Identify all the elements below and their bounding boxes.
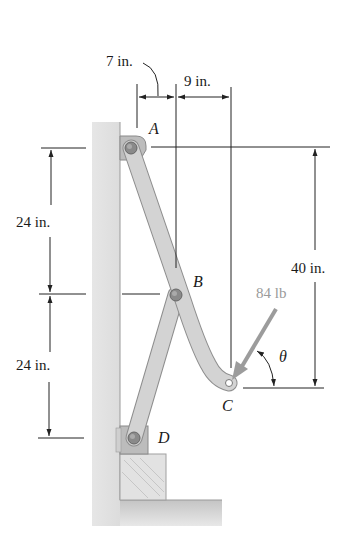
angle-theta-label: θ: [279, 348, 287, 365]
point-c-label: C: [222, 397, 233, 414]
dim-label-9in: 9 in.: [184, 73, 211, 89]
dim-label-24in-upper: 24 in.: [16, 214, 50, 230]
pin-a: [125, 142, 137, 154]
point-a-label: A: [148, 120, 159, 137]
dim-label-40in: 40 in.: [291, 260, 325, 276]
force-magnitude-label: 84 lb: [256, 285, 286, 301]
dimension-lines: [38, 63, 330, 438]
wood-block: [120, 454, 166, 500]
member-db: [134, 295, 176, 438]
pin-b: [170, 289, 182, 301]
mechanism-diagram: 7 in. 9 in. 24 in. 24 in. 40 in. 84 lb θ…: [0, 0, 355, 540]
pin-d: [128, 432, 140, 444]
member-abc: [131, 148, 229, 383]
point-b-label: B: [193, 273, 203, 290]
hole-c: [226, 380, 233, 387]
dim-label-24in-lower: 24 in.: [16, 357, 50, 373]
point-d-label: D: [157, 429, 170, 446]
force-arrow: [232, 309, 276, 380]
dim-label-7in: 7 in.: [106, 53, 133, 69]
